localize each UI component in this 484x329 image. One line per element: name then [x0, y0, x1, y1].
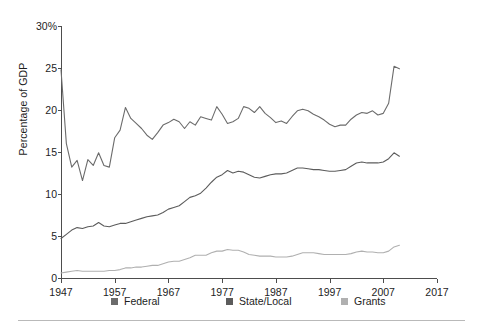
series-line-federal — [61, 66, 399, 180]
legend-swatch-icon — [111, 298, 118, 305]
legend-item-grants[interactable]: Grants — [341, 295, 386, 307]
legend-item-state-local[interactable]: State/Local — [226, 295, 292, 307]
legend-label: Grants — [354, 295, 386, 307]
series-line-grants — [61, 245, 399, 273]
series-line-state-local — [61, 153, 399, 239]
legend-swatch-icon — [341, 298, 348, 305]
legend-item-federal[interactable]: Federal — [111, 295, 160, 307]
legend-label: Federal — [124, 295, 160, 307]
legend-swatch-icon — [226, 298, 233, 305]
plot-area — [0, 0, 484, 329]
chart-container: Percentage of GDP 051015202530% 19471957… — [0, 0, 484, 329]
legend-label: State/Local — [239, 295, 292, 307]
footer-divider — [18, 320, 465, 321]
chart-legend: FederalState/LocalGrants — [0, 293, 484, 311]
